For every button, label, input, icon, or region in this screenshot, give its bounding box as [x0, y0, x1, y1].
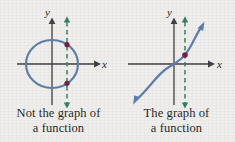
caption-line-1: The graph of: [144, 106, 210, 120]
x-axis-label: x: [216, 58, 222, 70]
caption-line-2: a function: [118, 121, 235, 136]
y-axis-label: y: [166, 6, 172, 18]
plot-is-a-function: x y: [118, 4, 235, 108]
intersection-point: [64, 42, 69, 47]
plot-not-a-function: x y: [0, 4, 117, 108]
caption-is-a-function: The graph of a function: [118, 106, 235, 136]
x-axis: [17, 61, 101, 68]
caption-line-1: Not the graph of: [17, 106, 101, 120]
intersection-point: [64, 81, 69, 86]
intersection-point: [182, 52, 188, 58]
y-axis-label: y: [44, 6, 50, 18]
y-axis: [49, 18, 56, 106]
caption-not-a-function: Not the graph of a function: [0, 106, 117, 136]
vertical-test-line: [182, 16, 188, 108]
panel-is-a-function: x y The graph of a function: [118, 0, 235, 142]
panel-not-a-function: x y Not the graph of a function: [0, 0, 117, 142]
vertical-test-line: [64, 16, 70, 108]
caption-line-2: a function: [0, 121, 117, 136]
vertical-line-test-figure: x y Not the graph of a function: [0, 0, 235, 142]
cubic-curve: [136, 26, 202, 100]
x-axis-label: x: [101, 58, 107, 70]
